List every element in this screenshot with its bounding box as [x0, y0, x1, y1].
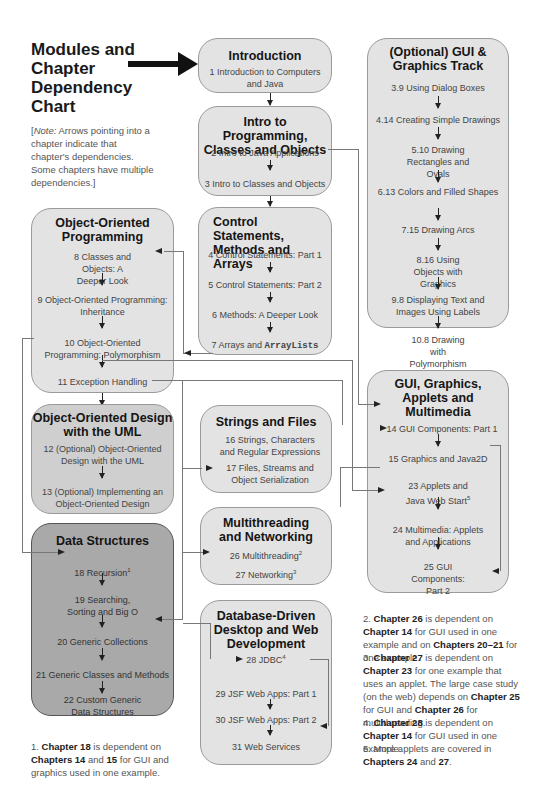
- chapter-30[interactable]: 30 JSF Web Apps: Part 2: [201, 714, 331, 726]
- connector-line: [102, 360, 352, 361]
- arrow-icon: [438, 96, 439, 108]
- arrow-icon: [438, 316, 439, 328]
- module-gui-applets[interactable]: GUI, Graphics, Applets and Multimedia 14…: [367, 370, 509, 593]
- connector-line: [352, 360, 353, 490]
- chapter-16[interactable]: 16 Strings, Characters and Regular Expre…: [201, 434, 331, 458]
- chapter-31[interactable]: 31 Web Services: [201, 741, 331, 753]
- module-control-statements[interactable]: Control Statements, Methods and Arrays 4…: [198, 207, 332, 355]
- section-7-15[interactable]: 7.15 Drawing Arcs: [368, 224, 508, 236]
- module-introduction[interactable]: Introduction 1 Introduction to Computers…: [198, 38, 332, 93]
- arrow-icon: [438, 537, 439, 549]
- module-title: Object-Oriented Design with the UML: [32, 411, 173, 439]
- arrow-icon: [270, 292, 271, 302]
- arrowhead-icon: [206, 465, 213, 471]
- arrow-icon: [102, 273, 103, 285]
- connector-line: [500, 445, 501, 571]
- chapter-29[interactable]: 29 JSF Web Apps: Part 1: [201, 688, 331, 700]
- dependency-note: [Note: Arrows pointing into a chapter in…: [31, 124, 156, 189]
- connector-line: [210, 623, 211, 659]
- connector-line: [22, 552, 60, 553]
- arrow-icon: [438, 170, 439, 182]
- arrow-icon: [270, 699, 271, 709]
- connector-line: [152, 380, 342, 381]
- connector-line: [310, 659, 328, 660]
- chapter-7[interactable]: 7 Arrays and ArrayLists: [199, 339, 331, 352]
- connector-line: [182, 468, 202, 469]
- arrow-icon: [270, 93, 271, 105]
- connector-line: [340, 467, 380, 468]
- arrow-icon: [102, 681, 103, 693]
- arrow-icon: [270, 725, 271, 735]
- section-4-14[interactable]: 4.14 Creating Simple Drawings: [368, 114, 508, 126]
- chapter-22[interactable]: 22 Custom Generic Data Structures: [32, 694, 173, 718]
- section-10-8: 10.8 Drawing with Polymorphism: [368, 334, 508, 370]
- connector-line: [342, 380, 343, 425]
- chapter-27[interactable]: 27 Networking3: [201, 566, 331, 581]
- chapter-5[interactable]: 5 Control Statements: Part 2: [199, 279, 331, 291]
- connector-line: [182, 380, 183, 620]
- module-ood-uml[interactable]: Object-Oriented Design with the UML 12 (…: [31, 404, 174, 514]
- connector-line: [183, 251, 184, 353]
- section-3-9[interactable]: 3.9 Using Dialog Boxes: [368, 82, 508, 94]
- module-title: Strings and Files: [201, 415, 331, 429]
- chapter-11[interactable]: 11 Exception Handling: [32, 376, 173, 388]
- footnote-1: 1. Chapter 18 is dependent on Chapters 1…: [31, 740, 181, 779]
- arrowhead-icon: [374, 401, 381, 407]
- module-title: (Optional) GUI & Graphics Track: [368, 45, 508, 73]
- connector-line: [183, 623, 211, 624]
- arrow-icon: [270, 262, 271, 272]
- section-6-13[interactable]: 6.13 Colors and Filled Shapes: [368, 186, 508, 198]
- module-strings-files[interactable]: Strings and Files 16 Strings, Characters…: [200, 405, 332, 493]
- arrowhead-icon: [155, 248, 162, 254]
- section-9-8[interactable]: 9.8 Displaying Text and Images Using Lab…: [368, 294, 508, 318]
- chapter-1[interactable]: 1 Introduction to Computers and Java: [199, 66, 331, 90]
- arrow-icon: [438, 208, 439, 220]
- arrow-icon: [102, 466, 103, 478]
- module-title: Data Structures: [32, 534, 173, 548]
- arrow-icon: [102, 573, 103, 585]
- arrowhead-icon: [380, 425, 387, 431]
- arrow-icon: [438, 238, 439, 250]
- module-intro-programming[interactable]: Intro to Programming, Classes and Object…: [198, 106, 332, 196]
- arrowhead-icon: [203, 549, 210, 555]
- chapter-3[interactable]: 3 Intro to Classes and Objects: [199, 178, 331, 190]
- module-title: Database-Driven Desktop and Web Developm…: [201, 609, 331, 651]
- chapter-17[interactable]: 17 Files, Streams and Object Serializati…: [201, 462, 331, 486]
- chapter-26[interactable]: 26 Multithreading2: [201, 547, 331, 562]
- connector-line: [328, 149, 358, 150]
- arrow-icon: [438, 127, 439, 139]
- connector-line: [182, 552, 204, 553]
- chapter-15[interactable]: 15 Graphics and Java2D: [368, 453, 508, 465]
- arrow-icon: [270, 322, 271, 332]
- chapter-20[interactable]: 20 Generic Collections: [32, 636, 173, 648]
- module-title: Introduction: [199, 49, 331, 63]
- module-title: GUI, Graphics, Applets and Multimedia: [368, 377, 508, 419]
- footnote-5: 5. More applets are covered in Chapters …: [363, 742, 523, 768]
- module-database[interactable]: Database-Driven Desktop and Web Developm…: [200, 600, 332, 765]
- connector-line: [490, 445, 500, 446]
- start-arrowhead-icon: [178, 52, 198, 76]
- arrow-icon: [102, 355, 103, 367]
- chapter-21[interactable]: 21 Generic Classes and Methods: [32, 669, 173, 681]
- connector-line: [328, 659, 329, 726]
- chapter-4[interactable]: 4 Control Statements: Part 1: [199, 249, 331, 261]
- arrow-icon: [438, 434, 439, 446]
- chapter-9[interactable]: 9 Object-Oriented Programming: Inheritan…: [32, 294, 173, 318]
- arrowhead-icon: [320, 723, 327, 729]
- connector-line: [340, 467, 341, 507]
- arrow-icon: [270, 196, 271, 206]
- chapter-6[interactable]: 6 Methods: A Deeper Look: [199, 309, 331, 321]
- arrow-icon: [438, 497, 439, 509]
- page-title: Modules and Chapter Dependency Chart: [31, 40, 161, 116]
- module-multithreading[interactable]: Multithreading and Networking 26 Multith…: [200, 507, 332, 585]
- connector-line: [22, 338, 34, 339]
- chapter-2[interactable]: 2 Intro to Java Applications: [199, 147, 331, 159]
- connector-line: [164, 251, 183, 252]
- arrow-icon: [102, 648, 103, 660]
- chapter-25[interactable]: 25 GUI Components: Part 2: [368, 561, 508, 597]
- chapter-13[interactable]: 13 (Optional) Implementing an Object-Ori…: [32, 486, 173, 510]
- arrowhead-icon: [492, 568, 499, 574]
- arrowhead-icon: [236, 656, 243, 662]
- arrowhead-icon: [155, 616, 162, 622]
- chapter-12[interactable]: 12 (Optional) Object-Oriented Design wit…: [32, 443, 173, 467]
